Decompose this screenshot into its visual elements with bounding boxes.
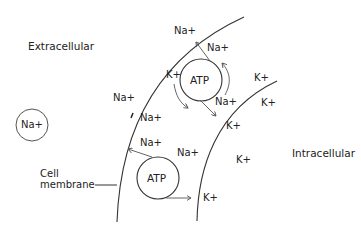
na-ion-label-2: Na+ [207,43,229,53]
arrow-k-in-top [200,100,216,116]
na-ion-label-6: Na+ [140,138,162,148]
cell-membrane-label-line2: membrane [40,180,95,190]
membrane-arrow-tick [131,113,133,118]
na-ion-label-7: Na+ [177,148,199,158]
extracellular-label: Extracellular [28,41,94,52]
k-ion-label-6: K+ [203,193,218,203]
atp-label-bottom: ATP [147,173,166,184]
intracellular-label: Intracellular [292,148,355,159]
atp-label-top: ATP [190,75,209,86]
k-ion-label-1: K+ [166,70,181,80]
arrow-na-out-bottom [128,149,152,157]
arrow-na-curve-up [222,63,229,95]
sodium-potassium-pump-diagram: Extracellular Intracellular Cell membran… [0,0,361,231]
k-ion-label-2: K+ [254,73,269,83]
na-ion-label-4: Na+ [113,93,135,103]
k-ion-label-5: K+ [236,155,251,165]
na-ion-label-5: Na+ [140,113,162,123]
k-ion-label-3: K+ [261,98,276,108]
cell-membrane-label-line1: Cell [40,169,59,179]
na-ion-label-3: Na+ [215,97,237,107]
k-ion-label-4: K+ [226,121,241,131]
free-na-ion-label: Na+ [21,120,43,130]
na-ion-label-1: Na+ [174,26,196,36]
